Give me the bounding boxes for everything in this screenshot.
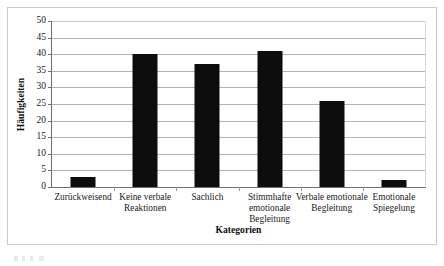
y-tick-label: 45 — [37, 33, 47, 43]
bar — [71, 177, 96, 187]
bar — [319, 101, 344, 187]
gridline — [52, 121, 425, 122]
gridline — [52, 104, 425, 105]
y-tick-mark — [48, 187, 52, 188]
gridline — [52, 137, 425, 138]
y-tick-label: 10 — [37, 149, 47, 159]
y-tick-mark — [48, 154, 52, 155]
gridline — [52, 38, 425, 39]
x-tick-mark — [176, 187, 177, 191]
x-tick-label: Emotionale Spiegelung — [355, 192, 433, 214]
gridline — [52, 54, 425, 55]
x-tick-mark — [114, 187, 115, 191]
y-tick-mark — [48, 121, 52, 122]
y-axis-title-text: Häufigkeiten — [16, 78, 27, 131]
chart-figure: Häufigkeiten 05101520253035404550Zurückw… — [7, 7, 437, 245]
y-tick-label: 20 — [37, 116, 47, 126]
y-tick-mark — [48, 104, 52, 105]
bar — [133, 54, 158, 187]
bar — [381, 180, 406, 187]
y-tick-mark — [48, 21, 52, 22]
y-tick-label: 5 — [41, 166, 46, 176]
gridline — [52, 170, 425, 171]
plot-area: 05101520253035404550ZurückweisendKeine v… — [51, 21, 426, 188]
y-tick-label: 30 — [37, 83, 47, 93]
y-tick-label: 0 — [41, 182, 46, 192]
scan-artifact — [14, 256, 50, 261]
bar — [195, 64, 220, 187]
bar — [257, 51, 282, 187]
y-tick-mark — [48, 54, 52, 55]
y-tick-label: 25 — [37, 99, 47, 109]
y-tick-mark — [48, 87, 52, 88]
y-tick-label: 50 — [37, 16, 47, 26]
y-tick-label: 35 — [37, 66, 47, 76]
y-tick-label: 40 — [37, 49, 47, 59]
y-tick-mark — [48, 71, 52, 72]
x-tick-mark — [239, 187, 240, 191]
x-tick-mark — [363, 187, 364, 191]
y-tick-mark — [48, 170, 52, 171]
y-tick-mark — [48, 38, 52, 39]
y-axis-title: Häufigkeiten — [14, 21, 28, 188]
y-tick-mark — [48, 137, 52, 138]
gridline — [52, 154, 425, 155]
x-tick-mark — [301, 187, 302, 191]
gridline — [52, 21, 425, 22]
gridline — [52, 87, 425, 88]
gridline — [52, 71, 425, 72]
y-tick-label: 15 — [37, 132, 47, 142]
x-axis-title: Kategorien — [51, 224, 426, 235]
